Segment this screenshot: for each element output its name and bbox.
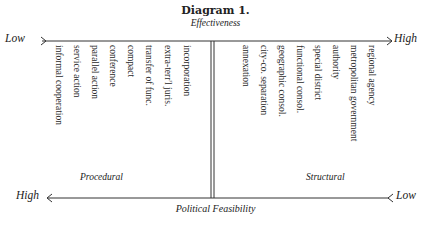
group-label-procedural: Procedural — [80, 172, 123, 182]
item-annexation: annexation — [240, 45, 252, 87]
item-geographic-consol: geographic consol. — [276, 45, 288, 117]
group-label-structural: Structural — [306, 172, 345, 182]
item-extra-terr-juris: extra-terr'l juris. — [162, 45, 174, 106]
item-transfer-of-func: transfer of func. — [143, 45, 155, 106]
top-axis-high-label: High — [394, 32, 417, 44]
item-city-co-separation: city-co. separation — [258, 45, 270, 115]
bottom-axis-low-label: Low — [396, 189, 416, 201]
arrow-left-icon — [388, 194, 393, 202]
item-conference: conference — [107, 45, 119, 87]
item-metropolitan-government: metropolitan government — [348, 45, 360, 141]
item-special-district: special district — [312, 45, 324, 100]
item-service-action: service action — [71, 45, 83, 98]
item-compact: compact — [125, 45, 137, 77]
top-axis-low-label: Low — [5, 32, 25, 44]
item-informal-cooperation: informal cooperation — [53, 45, 65, 125]
item-authority: authority — [330, 45, 342, 79]
item-regional-agency: regional agency — [366, 45, 378, 105]
bottom-axis-title: Political Feasibility — [0, 203, 431, 214]
item-parallel-action: parallel action — [89, 45, 101, 99]
item-functional-consol: functional consol. — [294, 45, 306, 113]
item-incorporation: incorporation — [181, 45, 193, 96]
bottom-axis-high-label: High — [16, 189, 39, 201]
